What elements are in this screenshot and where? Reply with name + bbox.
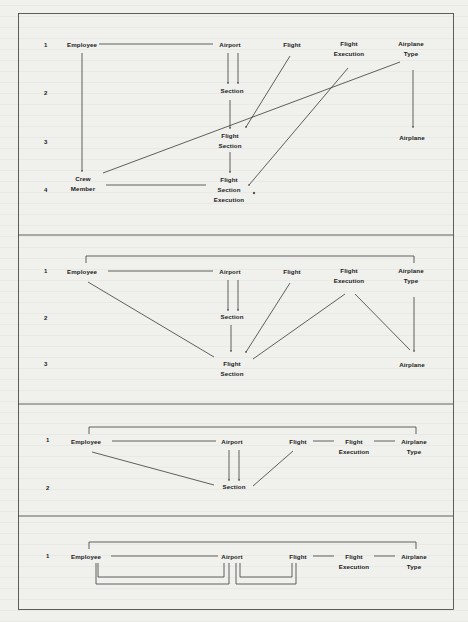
row-number: 1 xyxy=(44,42,47,48)
entity-employee: Employee xyxy=(71,437,101,447)
label-line: Type xyxy=(398,49,424,59)
label-line: Flight xyxy=(339,437,369,447)
entity-airplane-type: Airplane Type xyxy=(398,266,424,286)
row-number: 1 xyxy=(46,437,49,443)
label-line: Airplane xyxy=(401,437,427,447)
row-number: 1 xyxy=(44,268,47,274)
label-line: Section xyxy=(220,369,243,379)
label-line: Flight xyxy=(218,131,241,141)
entity-flight: Flight xyxy=(283,40,300,50)
label-line: Type xyxy=(401,447,427,457)
label-line: Type xyxy=(401,562,427,572)
entity-flight-section-execution: Flight Section Execution xyxy=(214,175,244,205)
row-number: 2 xyxy=(44,315,47,321)
row-number: 3 xyxy=(44,139,47,145)
row-number: 4 xyxy=(44,187,47,193)
entity-flight-execution: Flight Execution xyxy=(334,39,364,59)
entity-flight: Flight xyxy=(289,552,306,562)
entity-employee: Employee xyxy=(67,267,97,277)
label-line: Member xyxy=(71,184,95,194)
entity-employee: Employee xyxy=(67,40,97,50)
entity-airplane-type: Airplane Type xyxy=(398,39,424,59)
entity-airport: Airport xyxy=(219,40,240,50)
row-number: 2 xyxy=(44,90,47,96)
entity-airplane: Airplane xyxy=(399,133,425,143)
entity-employee: Employee xyxy=(71,552,101,562)
entity-flight: Flight xyxy=(283,267,300,277)
label-line: Airplane xyxy=(401,552,427,562)
label-line: Execution xyxy=(214,195,244,205)
entity-section: Section xyxy=(220,86,243,96)
entity-airport: Airport xyxy=(221,437,242,447)
entity-section: Section xyxy=(222,482,245,492)
entity-flight-section: Flight Section xyxy=(220,359,243,379)
row-number: 2 xyxy=(46,485,49,491)
label-line: Flight xyxy=(334,266,364,276)
entity-crew-member: Crew Member xyxy=(71,174,95,194)
entity-flight: Flight xyxy=(289,437,306,447)
entity-flight-execution: Flight Execution xyxy=(334,266,364,286)
label-line: Execution xyxy=(339,447,369,457)
label-line: Execution xyxy=(339,562,369,572)
label-line: Crew xyxy=(71,174,95,184)
label-line: Airplane xyxy=(398,39,424,49)
entity-airplane-type: Airplane Type xyxy=(401,552,427,572)
row-number: 3 xyxy=(44,361,47,367)
label-line: Flight xyxy=(220,359,243,369)
scanned-page: 1 2 3 4 Employee Airport Flight Flight E… xyxy=(0,0,468,622)
entity-flight-execution: Flight Execution xyxy=(339,437,369,457)
entity-flight-execution: Flight Execution xyxy=(339,552,369,572)
entity-airport: Airport xyxy=(219,267,240,277)
label-line: Section xyxy=(218,141,241,151)
label-line: Execution xyxy=(334,276,364,286)
label-line: Flight xyxy=(339,552,369,562)
label-line: Flight xyxy=(334,39,364,49)
row-number: 1 xyxy=(46,553,49,559)
entity-flight-section: Flight Section xyxy=(218,131,241,151)
label-line: Section xyxy=(214,185,244,195)
entity-airplane: Airplane xyxy=(399,360,425,370)
entity-airplane-type: Airplane Type xyxy=(401,437,427,457)
label-line: Execution xyxy=(334,49,364,59)
label-line: Type xyxy=(398,276,424,286)
label-line: Airplane xyxy=(398,266,424,276)
label-line: Flight xyxy=(214,175,244,185)
entity-airport: Airport xyxy=(221,552,242,562)
entity-section: Section xyxy=(220,312,243,322)
